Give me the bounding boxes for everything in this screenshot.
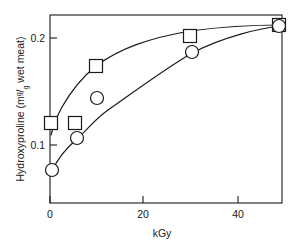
data-point-circle-5	[273, 20, 286, 33]
data-point-square-4	[184, 30, 197, 43]
chart-figure: 0.2 0.1 0 20 40 kGy Hydroxyproline (mg/g…	[0, 0, 302, 245]
data-point-circle-1	[46, 164, 59, 177]
data-point-circle-4	[186, 46, 199, 59]
data-point-square-3	[90, 60, 103, 73]
hydroxyproline-dose-response-chart: 0.2 0.1 0 20 40 kGy Hydroxyproline (mg/g…	[0, 0, 302, 245]
data-point-circle-3	[91, 92, 104, 105]
curve-circle-series	[52, 26, 280, 171]
y-axis-title-main: Hydroxyproline (m	[14, 96, 26, 181]
y-tick-label-0.2: 0.2	[30, 32, 45, 44]
svg-text:Hydroxyproline (mg/g wet meat: Hydroxyproline (mg/g wet meat)	[14, 37, 30, 182]
y-axis-title: Hydroxyproline (mg/g wet meat)	[14, 37, 30, 182]
data-point-circle-2	[71, 132, 84, 145]
square-series-markers	[45, 19, 286, 130]
y-tick-label-0.1: 0.1	[30, 139, 45, 151]
x-tick-label-40: 40	[232, 208, 244, 220]
data-point-square-2	[69, 117, 82, 130]
plot-frame	[50, 15, 282, 203]
circle-series-markers	[46, 20, 286, 177]
data-point-square-1	[45, 117, 58, 130]
curve-square-series	[51, 25, 280, 135]
x-axis-title: kGy	[153, 227, 172, 239]
x-tick-label-0: 0	[47, 208, 53, 220]
x-tick-label-20: 20	[137, 208, 149, 220]
y-axis-title-tail: wet meat)	[14, 37, 26, 86]
